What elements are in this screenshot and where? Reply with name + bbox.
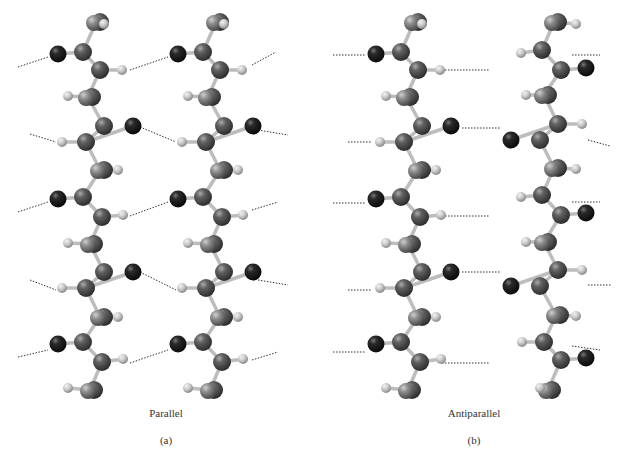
hydrogen-atom — [435, 65, 445, 75]
hydrogen-atom — [118, 354, 128, 364]
hydrogen-atom — [238, 210, 248, 220]
atoms — [50, 13, 595, 399]
oxygen-atom — [443, 118, 460, 135]
hydrogen-atom — [57, 283, 67, 293]
backbone-atom — [392, 43, 410, 61]
side-chain-atom — [90, 310, 106, 326]
backbone-atom — [552, 61, 570, 79]
backbone-atom — [77, 279, 95, 297]
backbone-atom — [413, 263, 431, 281]
side-chain-atom — [200, 383, 216, 399]
hydrogen-atom — [516, 192, 526, 202]
oxygen-atom — [50, 336, 67, 353]
oxygen-atom — [50, 46, 67, 63]
side-chain-atom — [210, 310, 226, 326]
oxygen-atom — [170, 46, 187, 63]
backbone-atom — [93, 208, 111, 226]
hydrogen-atom — [436, 210, 446, 220]
panel-b-label: (b) — [414, 434, 534, 446]
backbone-atom — [194, 43, 212, 61]
hydrogen-atom — [57, 137, 67, 147]
side-chain-atom — [198, 90, 214, 106]
oxygen-atom — [245, 118, 262, 135]
side-chain-atom — [78, 90, 94, 106]
hydrogen-atom — [517, 337, 527, 347]
oxygen-atom — [368, 191, 385, 208]
backbone-atom — [533, 186, 551, 204]
oxygen-atom — [125, 264, 142, 281]
hydrogen-atom — [63, 91, 73, 101]
backbone-atom — [91, 61, 109, 79]
backbone-atom — [535, 333, 553, 351]
hydrogen-atom — [237, 65, 247, 75]
hydrogen-atom — [381, 383, 391, 393]
oxygen-atom — [368, 46, 385, 63]
side-chain-atom — [80, 383, 96, 399]
backbone-atom — [531, 131, 549, 149]
side-chain-atom — [408, 310, 424, 326]
backbone-atom — [213, 353, 231, 371]
hydrogen-atom — [99, 19, 109, 29]
hydrogen-atom — [183, 91, 193, 101]
oxygen-atom — [578, 60, 595, 77]
hydrogen-atom — [63, 238, 73, 248]
hydrogen-atom — [219, 19, 229, 29]
oxygen-atom — [170, 191, 187, 208]
oxygen-atom — [50, 191, 67, 208]
hydrogen-atom — [117, 65, 127, 75]
hydrogen-atom — [233, 165, 243, 175]
hydrogen-atom — [375, 283, 385, 293]
hydrogen-atom — [113, 312, 123, 322]
backbone-atom — [395, 133, 413, 151]
backbone-atom — [93, 353, 111, 371]
backbone-atom — [549, 261, 567, 279]
hydrogen-atom — [233, 312, 243, 322]
oxygen-atom — [503, 278, 520, 295]
backbone-atom — [411, 353, 429, 371]
hydrogen-atom — [577, 119, 587, 129]
hydrogen-atom — [571, 164, 581, 174]
side-chain-atom — [210, 163, 226, 179]
backbone-atom — [95, 117, 113, 135]
hydrogen-atom — [571, 19, 581, 29]
backbone-atom — [552, 351, 570, 369]
hydrogen-atom — [571, 311, 581, 321]
hydrogen-atom — [516, 48, 526, 58]
side-chain-atom — [544, 161, 560, 177]
backbone-atom — [531, 277, 549, 295]
backbone-atom — [411, 208, 429, 226]
backbone-atom — [533, 41, 551, 59]
oxygen-atom — [125, 118, 142, 135]
backbone-atom — [549, 115, 567, 133]
side-chain-atom — [534, 235, 550, 251]
hydrogen-atom — [521, 90, 531, 100]
backbone-atom — [392, 333, 410, 351]
side-chain-atom — [408, 163, 424, 179]
backbone-atom — [74, 188, 92, 206]
panel-b-title: Antiparallel — [414, 407, 534, 419]
hydrogen-atom — [381, 238, 391, 248]
backbone-atom — [77, 133, 95, 151]
side-chain-atom — [398, 237, 414, 253]
backbone-atom — [413, 117, 431, 135]
backbone-atom — [409, 61, 427, 79]
backbone-atom — [395, 279, 413, 297]
side-chain-atom — [534, 88, 550, 104]
oxygen-atom — [245, 264, 262, 281]
beta-sheet-diagram — [0, 0, 626, 461]
backbone-atom — [95, 263, 113, 281]
hydrogen-atom — [436, 354, 446, 364]
oxygen-atom — [578, 350, 595, 367]
hydrogen-atom — [577, 265, 587, 275]
side-chain-atom — [398, 383, 414, 399]
hydrogen-atom — [177, 137, 187, 147]
hydrogen-atom — [183, 383, 193, 393]
oxygen-atom — [503, 132, 520, 149]
side-chain-atom — [90, 163, 106, 179]
backbone-atom — [194, 333, 212, 351]
backbone-atom — [74, 43, 92, 61]
side-chain-atom — [546, 308, 562, 324]
hydrogen-atom — [183, 238, 193, 248]
hydrogen-atom — [417, 19, 427, 29]
backbone-atom — [215, 263, 233, 281]
